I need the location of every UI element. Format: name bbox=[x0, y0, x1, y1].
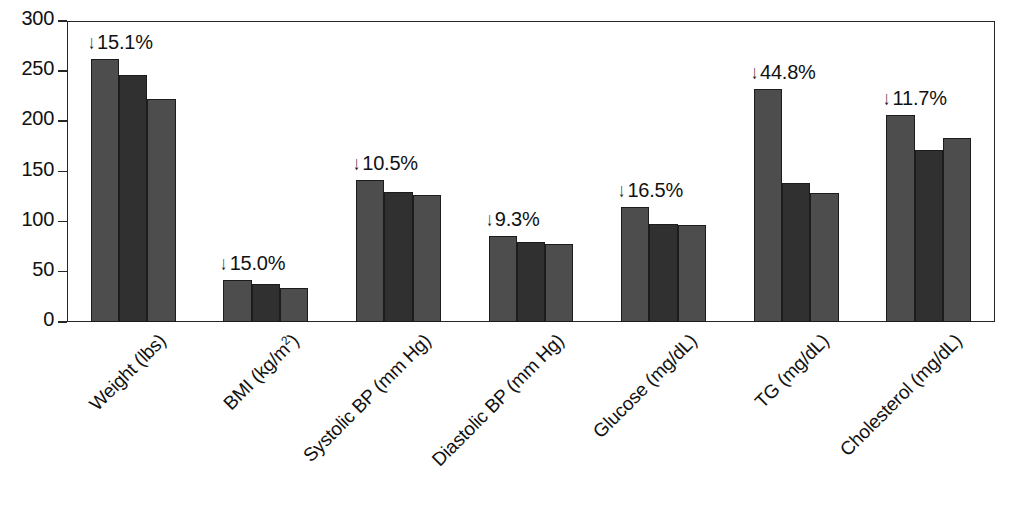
bar bbox=[119, 75, 147, 322]
y-tick-label: 100 bbox=[22, 209, 54, 229]
y-axis: 300250200150100500 bbox=[0, 0, 67, 330]
bar bbox=[915, 150, 943, 322]
down-arrow-icon: ↓ bbox=[884, 89, 891, 109]
percent-change-annotation: ↓10.5% bbox=[352, 153, 418, 174]
down-arrow-icon: ↓ bbox=[486, 210, 493, 230]
bar-group bbox=[621, 21, 706, 322]
bar bbox=[147, 99, 175, 322]
y-tick-mark bbox=[58, 70, 67, 72]
x-axis-labels: Weight (lbs)BMI (kg/m2)Systolic BP (mm H… bbox=[0, 322, 1012, 506]
bar bbox=[413, 195, 441, 322]
bar bbox=[649, 224, 677, 322]
bar-groups-layer bbox=[67, 21, 995, 322]
bar bbox=[489, 236, 517, 322]
x-axis-label: BMI (kg/m2) bbox=[219, 330, 303, 414]
bar bbox=[943, 138, 971, 322]
bar bbox=[886, 115, 914, 322]
percent-change-value: 9.3% bbox=[495, 208, 540, 230]
bar-group bbox=[489, 21, 574, 322]
bar-group bbox=[886, 21, 971, 322]
percent-change-annotation: ↓16.5% bbox=[617, 180, 683, 201]
bar bbox=[678, 225, 706, 322]
bar bbox=[754, 89, 782, 322]
down-arrow-icon: ↓ bbox=[221, 254, 228, 274]
percent-change-value: 16.5% bbox=[627, 179, 683, 201]
x-axis-label: Systolic BP (mm Hg) bbox=[299, 330, 436, 467]
x-axis-label: Diastolic BP (mm Hg) bbox=[428, 330, 569, 471]
y-tick-label: 150 bbox=[22, 159, 54, 179]
down-arrow-icon: ↓ bbox=[88, 33, 95, 53]
bar bbox=[356, 180, 384, 322]
bar bbox=[810, 193, 838, 322]
percent-change-annotation: ↓9.3% bbox=[485, 209, 540, 230]
label-superscript: 2 bbox=[278, 333, 292, 347]
percent-change-value: 11.7% bbox=[893, 87, 947, 109]
percent-change-annotation: ↓15.1% bbox=[87, 32, 153, 53]
y-tick-mark bbox=[58, 271, 67, 273]
percent-change-annotation: ↓11.7% bbox=[882, 88, 947, 109]
y-tick-mark bbox=[58, 20, 67, 22]
down-arrow-icon: ↓ bbox=[618, 181, 625, 201]
y-tick-mark bbox=[58, 171, 67, 173]
down-arrow-icon: ↓ bbox=[751, 63, 758, 83]
x-axis-label: Cholesterol (mg/dL) bbox=[835, 330, 966, 461]
bar-chart: 300250200150100500 Weight (lbs)BMI (kg/m… bbox=[0, 0, 1012, 506]
percent-change-annotation: ↓44.8% bbox=[750, 62, 816, 83]
percent-change-value: 10.5% bbox=[362, 152, 418, 174]
bar bbox=[782, 183, 810, 322]
percent-change-value: 15.0% bbox=[230, 252, 286, 274]
bar-group bbox=[91, 21, 176, 322]
bar bbox=[545, 244, 573, 322]
y-tick-label: 50 bbox=[32, 259, 54, 279]
x-axis-label: Weight (lbs) bbox=[86, 330, 171, 415]
percent-change-value: 15.1% bbox=[97, 31, 153, 53]
x-axis-label: TG (mg/dL) bbox=[751, 330, 834, 413]
y-tick-label: 300 bbox=[22, 8, 54, 28]
bar bbox=[91, 59, 119, 322]
y-tick-label: 250 bbox=[22, 58, 54, 78]
percent-change-annotation: ↓15.0% bbox=[219, 253, 285, 274]
bar bbox=[223, 280, 251, 322]
bar-group bbox=[223, 21, 308, 322]
down-arrow-icon: ↓ bbox=[353, 154, 360, 174]
bar bbox=[517, 242, 545, 322]
bar bbox=[621, 207, 649, 322]
bar bbox=[280, 288, 308, 322]
x-axis-label: Glucose (mg/dL) bbox=[588, 330, 701, 443]
bar bbox=[252, 284, 280, 322]
percent-change-value: 44.8% bbox=[760, 61, 816, 83]
bar bbox=[384, 192, 412, 322]
y-tick-mark bbox=[58, 120, 67, 122]
y-tick-mark bbox=[58, 221, 67, 223]
y-tick-label: 200 bbox=[22, 108, 54, 128]
